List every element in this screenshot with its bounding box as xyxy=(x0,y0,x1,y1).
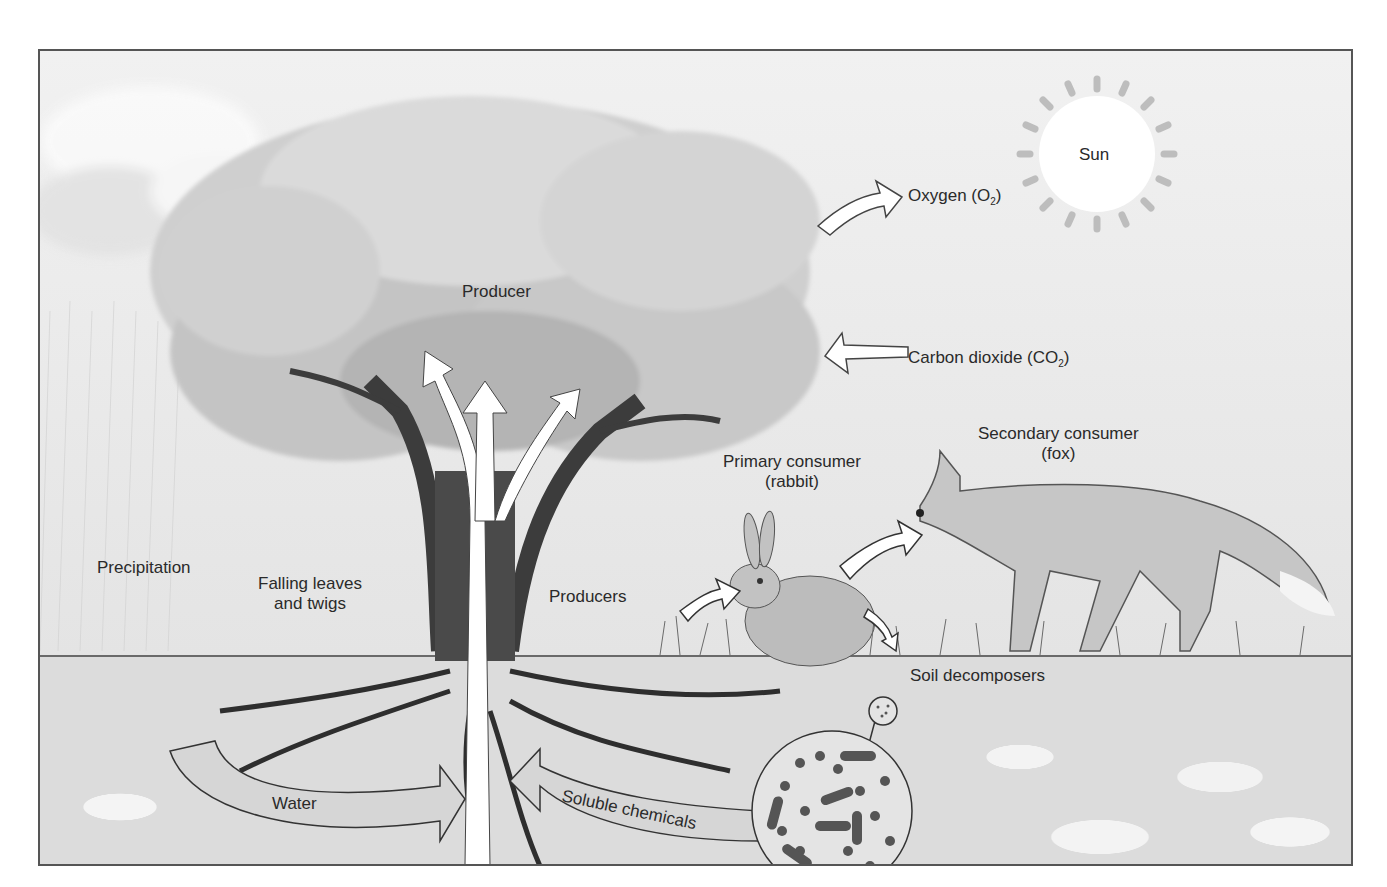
label-falling-leaves: Falling leaves and twigs xyxy=(258,574,362,614)
label-secondary-consumer-line2: (fox) xyxy=(978,444,1139,464)
label-primary-consumer-line2: (rabbit) xyxy=(723,472,861,492)
label-water: Water xyxy=(272,794,317,814)
precipitation-streaks xyxy=(40,301,180,651)
soil-decomposers-magnified xyxy=(752,697,912,866)
label-oxygen-text: Oxygen (O xyxy=(908,186,990,205)
label-primary-consumer-line1: Primary consumer xyxy=(723,452,861,472)
gas-exchange-arrows xyxy=(818,181,908,373)
label-secondary-consumer: Secondary consumer (fox) xyxy=(978,424,1139,464)
label-producer: Producer xyxy=(462,282,531,302)
label-secondary-consumer-line1: Secondary consumer xyxy=(978,424,1139,444)
rabbit-illustration xyxy=(730,510,875,666)
label-precipitation: Precipitation xyxy=(97,558,191,578)
label-carbon-dioxide: Carbon dioxide (CO2) xyxy=(908,348,1069,374)
scene-illustration xyxy=(40,51,1353,866)
label-falling-leaves-line1: Falling leaves xyxy=(258,574,362,594)
label-oxygen: Oxygen (O2) xyxy=(908,186,1001,212)
label-primary-consumer: Primary consumer (rabbit) xyxy=(723,452,861,492)
label-co2-close: ) xyxy=(1064,348,1070,367)
label-sun: Sun xyxy=(1079,145,1109,165)
label-falling-leaves-line2: and twigs xyxy=(258,594,362,614)
label-co2-text: Carbon dioxide (CO xyxy=(908,348,1058,367)
diagram-frame: Sun Oxygen (O2) Carbon dioxide (CO2) Pro… xyxy=(38,49,1353,866)
label-producers: Producers xyxy=(549,587,626,607)
label-soil-decomposers: Soil decomposers xyxy=(910,666,1045,686)
fox-illustration xyxy=(916,451,1335,651)
label-oxygen-close: ) xyxy=(996,186,1002,205)
